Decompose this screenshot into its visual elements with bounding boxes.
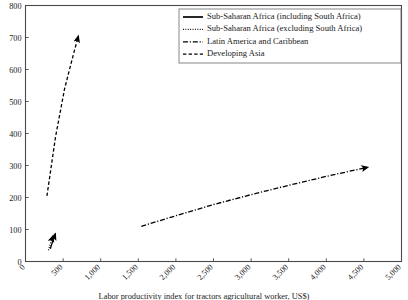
series-line — [141, 167, 368, 226]
y-tick-label: 600 — [9, 66, 21, 75]
x-axis-title: Labor productivity index for tractors ag… — [99, 292, 310, 300]
y-tick-label: 200 — [9, 194, 21, 203]
x-tick-label: 5,000 — [384, 263, 403, 282]
x-tick-label: 1,500 — [120, 263, 139, 282]
y-tick-label: 100 — [9, 226, 21, 235]
y-tick-label: 500 — [9, 98, 21, 107]
legend-label: Developing Asia — [207, 48, 265, 58]
legend-label: Sub-Saharan Africa (excluding South Afri… — [207, 23, 362, 33]
legend-label: Latin America and Caribbean — [207, 36, 309, 46]
x-tick-label: 4,500 — [346, 263, 365, 282]
x-tick-label: 0 — [18, 263, 27, 272]
x-tick-label: 500 — [49, 263, 64, 278]
x-tick-label: 3,000 — [233, 263, 252, 282]
series-line — [47, 36, 79, 196]
x-tick-label: 1,000 — [83, 263, 102, 282]
chart-plot-area: 0100200300400500600700800 05001,0001,500… — [0, 0, 408, 300]
x-tick-label: 4,000 — [308, 263, 327, 282]
x-axis-title-text: Labor productivity index for tractors ag… — [99, 292, 310, 300]
chart-container: 0100200300400500600700800 05001,0001,500… — [0, 0, 408, 300]
y-tick-label: 300 — [9, 162, 21, 171]
x-tick-label: 2,500 — [196, 263, 215, 282]
x-tick-label: 3,500 — [271, 263, 290, 282]
y-tick-label: 400 — [9, 130, 21, 139]
y-tick-label: 800 — [9, 2, 21, 11]
y-tick-label: 700 — [9, 34, 21, 43]
chart-legend: Sub-Saharan Africa (including South Afri… — [179, 9, 401, 63]
legend-label: Sub-Saharan Africa (including South Afri… — [207, 11, 361, 21]
series-lines — [47, 36, 368, 251]
x-tick-label: 2,000 — [158, 263, 177, 282]
